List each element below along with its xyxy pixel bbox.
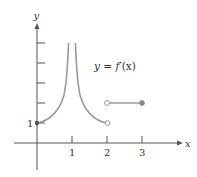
derivative-graph: x y 1 1 2 3 y = f′(x) xyxy=(0,0,197,177)
x-axis-arrow-icon xyxy=(177,141,183,146)
open-point-2-2 xyxy=(105,101,110,106)
y-tick-label-1: 1 xyxy=(27,118,33,129)
x-tick-label-1: 1 xyxy=(69,147,75,158)
closed-point-0-1 xyxy=(35,121,39,125)
y-axis-label: y xyxy=(33,10,40,21)
y-axis-arrow-icon xyxy=(35,23,40,29)
x-tick-label-3: 3 xyxy=(139,147,145,158)
closed-point-3-2 xyxy=(140,101,145,106)
curve-right-branch xyxy=(76,43,108,123)
open-point-2-1 xyxy=(105,121,110,126)
x-tick-label-2: 2 xyxy=(104,147,110,158)
function-label: y = f′(x) xyxy=(93,60,136,72)
x-axis-label: x xyxy=(185,138,191,149)
function-label-prefix: y = xyxy=(93,60,115,72)
function-label-arg: (x) xyxy=(122,60,136,72)
